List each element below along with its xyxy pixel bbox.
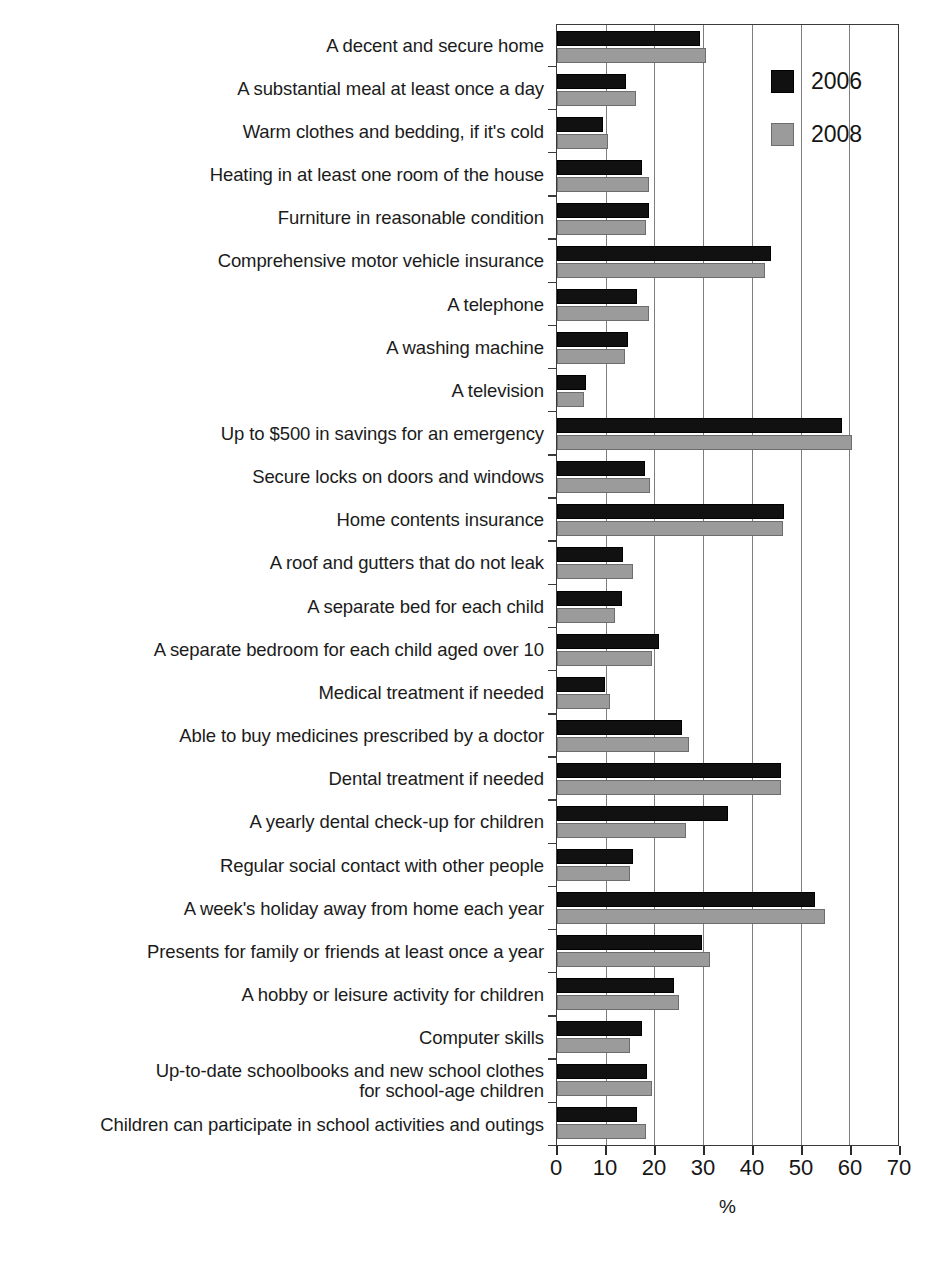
bar-row [557,930,898,973]
bar-2008 [557,134,608,149]
y-axis-tick [548,1017,556,1060]
x-axis-tick [605,1146,607,1155]
bar-2008 [557,263,765,278]
bar-2006 [557,1107,637,1122]
bar-row [557,800,898,843]
category-label: Able to buy medicines prescribed by a do… [0,715,551,758]
bar-row [557,542,898,585]
bar-2008 [557,1038,630,1053]
y-axis-tick [548,628,556,671]
legend: 20062008 [771,68,891,174]
x-axis-tick-labels: 010203040506070 [506,1155,939,1189]
category-label: Comprehensive motor vehicle insurance [0,240,551,283]
y-axis-tick [548,758,556,801]
category-label: Up to $500 in savings for an emergency [0,412,551,455]
bar-2008 [557,478,650,493]
bar-2008 [557,952,710,967]
y-axis-tick [548,930,556,973]
gray-square-icon [771,123,794,146]
y-axis-tick [548,326,556,369]
bar-2006 [557,1064,647,1079]
y-axis-ticks [548,24,556,1146]
y-axis-tick [548,585,556,628]
y-axis-tick [548,844,556,887]
bar-2008 [557,48,706,63]
bar-2006 [557,547,623,562]
y-axis-tick [548,153,556,196]
x-axis-title: % [556,1196,899,1218]
bar-2008 [557,866,630,881]
category-label: A separate bedroom for each child aged o… [0,628,551,671]
bar-2008 [557,392,584,407]
bar-chart: A decent and secure homeA substantial me… [0,0,939,1261]
bar-2008 [557,651,652,666]
bar-row [557,1102,898,1145]
x-axis-ticks [556,1146,899,1155]
x-axis-tick [654,1146,656,1155]
bar-2008 [557,1124,646,1139]
bar-2008 [557,435,852,450]
legend-label: 2008 [811,121,862,148]
bar-2008 [557,91,636,106]
x-axis-tick [556,1146,558,1155]
bar-2006 [557,246,771,261]
category-label: Children can participate in school activ… [0,1103,551,1146]
bar-2006 [557,31,700,46]
category-label: Warm clothes and bedding, if it's cold [0,110,551,153]
bar-2008 [557,349,625,364]
bar-row [557,197,898,240]
bar-2006 [557,332,628,347]
y-axis-tick [548,671,556,714]
bar-row [557,628,898,671]
bar-2006 [557,978,674,993]
bar-row [557,499,898,542]
bar-2006 [557,806,728,821]
category-label: A washing machine [0,326,551,369]
x-axis-tick [752,1146,754,1155]
bar-2008 [557,521,783,536]
bar-row [557,671,898,714]
bar-2006 [557,289,637,304]
bar-2006 [557,504,784,519]
category-label: Presents for family or friends at least … [0,930,551,973]
category-label: Home contents insurance [0,499,551,542]
bar-2006 [557,203,649,218]
bar-2006 [557,74,626,89]
bar-2006 [557,720,682,735]
y-axis-tick [548,369,556,412]
category-label: Up-to-date schoolbooks and new school cl… [0,1060,551,1103]
x-axis-tick [801,1146,803,1155]
y-axis-tick [548,887,556,930]
bar-2006 [557,117,603,132]
bar-2006 [557,418,842,433]
bar-rows [557,25,898,1145]
legend-item: 2008 [771,121,891,148]
category-label: A substantial meal at least once a day [0,67,551,110]
bar-2006 [557,849,633,864]
bar-2006 [557,160,642,175]
y-axis-tick [548,499,556,542]
x-axis-tick [850,1146,852,1155]
category-label: Heating in at least one room of the hous… [0,153,551,196]
y-axis-tick [548,456,556,499]
bar-2006 [557,591,622,606]
category-label: Medical treatment if needed [0,671,551,714]
bar-2008 [557,780,781,795]
bar-2006 [557,935,702,950]
y-axis-tick [548,67,556,110]
bar-row [557,757,898,800]
category-label: A telephone [0,283,551,326]
category-label: A separate bed for each child [0,585,551,628]
category-label: Secure locks on doors and windows [0,456,551,499]
bar-2008 [557,694,610,709]
bar-2006 [557,375,586,390]
bar-2006 [557,892,815,907]
bar-2008 [557,177,649,192]
bar-row [557,456,898,499]
y-axis-tick [548,197,556,240]
bar-2008 [557,564,633,579]
bar-row [557,1059,898,1102]
bar-row [557,585,898,628]
bar-row [557,283,898,326]
x-axis-tick [899,1146,901,1155]
